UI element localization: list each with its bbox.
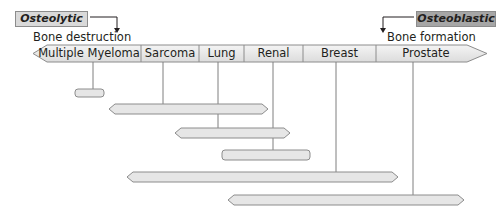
range-bar-sarcoma <box>109 104 268 114</box>
category-lung: Lung <box>199 46 244 61</box>
category-prostate: Prostate <box>376 46 476 61</box>
bone-metastasis-spectrum-diagram: Osteolytic Bone destruction Osteoblastic… <box>0 0 503 214</box>
range-bar-breast <box>127 172 398 182</box>
range-bar-prostate <box>228 195 464 205</box>
bone-formation-label: Bone formation <box>387 30 476 44</box>
range-bars <box>75 89 464 205</box>
category-multiple-myeloma: Multiple Myeloma <box>37 46 141 61</box>
range-bar-renal <box>222 150 310 160</box>
range-bar-lung <box>175 128 290 138</box>
bone-destruction-label: Bone destruction <box>33 30 131 44</box>
category-renal: Renal <box>244 46 303 61</box>
category-breast: Breast <box>303 46 376 61</box>
category-sarcoma: Sarcoma <box>141 46 199 61</box>
osteoblastic-label: Osteoblastic <box>416 11 496 27</box>
range-bar-multiple-myeloma <box>75 89 104 97</box>
osteolytic-label: Osteolytic <box>15 11 88 27</box>
